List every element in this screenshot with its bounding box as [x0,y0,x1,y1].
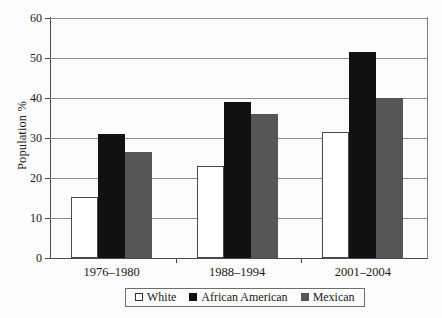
bar [125,152,152,258]
y-tick-mark [45,178,50,179]
y-tick-label: 40 [30,92,42,104]
legend-swatch-black-icon [189,293,197,301]
bar [251,114,278,258]
plot-area: 0102030405060 [50,18,427,258]
legend-swatch-gray-icon [301,293,309,301]
bar [322,132,349,258]
bar [224,102,251,258]
legend-label-mexican: Mexican [313,291,355,303]
bar [71,197,98,258]
y-tick-label: 20 [30,172,42,184]
legend-label-white: White [147,291,176,303]
y-tick-label: 60 [30,12,42,24]
legend-swatch-white-icon [135,293,143,301]
chart-legend: White African American Mexican [125,288,365,307]
y-tick-label: 10 [30,212,42,224]
x-tick-label: 2001–2004 [335,265,391,280]
legend-item-white: White [135,291,176,303]
y-tick-mark [45,218,50,219]
bar [197,166,224,258]
bar [376,98,403,258]
y-tick-label: 30 [30,132,42,144]
x-axis-line [50,258,428,259]
y-tick-mark [45,58,50,59]
bar [349,52,376,258]
bar-chart: Population % 0102030405060 1976–19801988… [0,0,442,318]
x-tick-mark [176,258,177,263]
bar [98,134,125,258]
y-tick-label: 50 [30,52,42,64]
x-tick-label: 1976–1980 [83,265,139,280]
y-tick-label: 0 [36,252,42,264]
gridline [50,18,427,19]
legend-item-african-american: African American [189,291,287,303]
legend-item-mexican: Mexican [301,291,355,303]
legend-label-african-american: African American [201,291,287,303]
y-axis-title: Population % [15,76,30,196]
y-tick-mark [45,258,50,259]
y-tick-mark [45,98,50,99]
y-tick-mark [45,18,50,19]
x-tick-mark [301,258,302,263]
x-tick-label: 1988–1994 [209,265,265,280]
y-tick-mark [45,138,50,139]
plot-right-border [427,17,428,259]
